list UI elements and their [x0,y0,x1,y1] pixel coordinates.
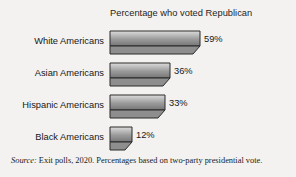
category-label-0: White Americans [34,36,104,46]
bar-black-americans[interactable] [109,126,133,152]
figure-container: Percentage who voted Republican White Am… [0,0,296,177]
bar-white-americans[interactable] [109,30,201,56]
value-label-0: 59% [204,34,223,44]
source-text: Exit polls, 2020. Percentages based on t… [39,156,263,165]
chart-title: Percentage who voted Republican [110,8,252,18]
table-row: Hispanic Americans 33% [0,94,296,120]
bar-asian-americans[interactable] [109,62,171,88]
table-row: Black Americans 12% [0,126,296,152]
table-row: White Americans 59% [0,30,296,56]
bar-shape-icon [109,94,166,120]
value-label-1: 36% [174,66,193,76]
value-label-2: 33% [169,98,188,108]
source-note: Source: Exit polls, 2020. Percentages ba… [11,156,289,165]
bar-hispanic-americans[interactable] [109,94,166,120]
category-label-2: Hispanic Americans [22,100,104,110]
bar-shape-icon [109,62,171,88]
value-label-3: 12% [136,130,155,140]
bar-shape-icon [109,30,201,56]
category-label-3: Black Americans [35,132,104,142]
table-row: Asian Americans 36% [0,62,296,88]
bar-shape-icon [109,126,133,152]
source-prefix: Source: [11,156,37,165]
category-label-1: Asian Americans [35,68,104,78]
